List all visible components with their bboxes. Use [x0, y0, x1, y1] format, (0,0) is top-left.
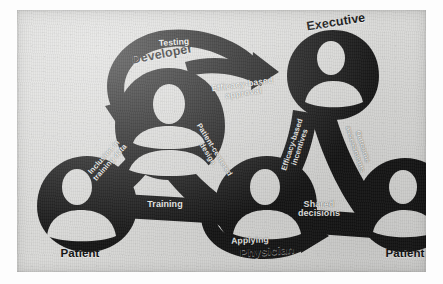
node-label-patient-right: Patient	[365, 248, 426, 260]
node-label-patient-left: Patient	[41, 248, 119, 260]
edge-label-training: Training	[129, 200, 201, 209]
edge-label-shared-decisions: Shared decisions	[279, 200, 359, 219]
figure-panel: Patient Developer Physician Executive Pa…	[17, 10, 426, 272]
figure-container: Patient Developer Physician Executive Pa…	[0, 0, 443, 284]
